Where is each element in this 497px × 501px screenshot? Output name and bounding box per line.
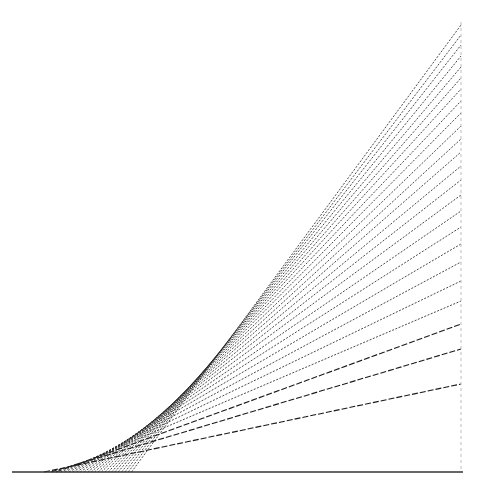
tangent-line <box>56 324 461 472</box>
tangent-line <box>77 227 461 472</box>
tangent-line <box>51 349 461 472</box>
tangent-line <box>80 211 461 472</box>
tangent-line <box>128 35 461 472</box>
tangent-line <box>122 56 462 472</box>
tangent-line <box>84 195 461 472</box>
tangent-line <box>132 25 462 472</box>
line-envelope-figure <box>0 0 497 501</box>
tangent-line <box>73 244 461 472</box>
tangent-line <box>44 384 461 472</box>
tangent-line <box>118 67 461 472</box>
tangent-line <box>125 45 461 472</box>
figure-canvas <box>0 0 497 501</box>
tangent-lines <box>44 25 461 472</box>
tangent-line <box>69 262 461 472</box>
tangent-line <box>115 78 461 472</box>
